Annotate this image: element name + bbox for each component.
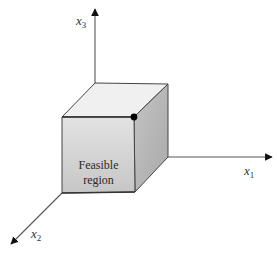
x1-axis-label: x1 xyxy=(244,164,254,180)
vertex-dot xyxy=(131,114,138,121)
x3-axis-label: x3 xyxy=(76,14,86,30)
diagram-canvas: x3 x1 x2 Feasible region xyxy=(0,0,277,261)
x2-axis-label: x2 xyxy=(31,227,41,243)
region-label-line1: Feasible xyxy=(62,158,135,173)
diagram-graphics xyxy=(0,0,277,261)
region-label-line2: region xyxy=(62,173,135,188)
feasible-region-label: Feasible region xyxy=(62,158,135,188)
